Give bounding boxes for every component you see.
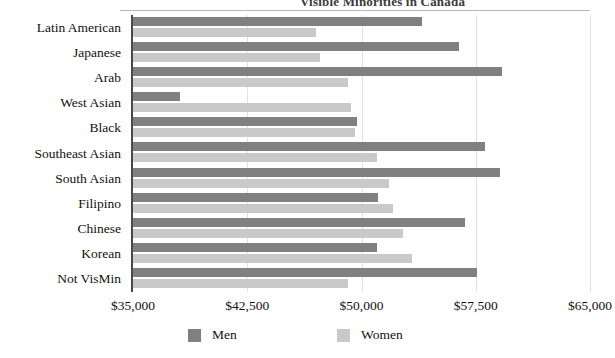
bar-men[interactable]	[133, 243, 377, 252]
plot-area	[133, 15, 590, 292]
x-tick-label: $35,000	[73, 298, 193, 314]
legend-item-women[interactable]: Women	[337, 327, 403, 343]
bar-row	[133, 116, 590, 141]
bar-men[interactable]	[133, 218, 465, 227]
bar-women[interactable]	[133, 204, 393, 213]
bar-men[interactable]	[133, 42, 459, 51]
bar-men[interactable]	[133, 168, 500, 177]
bar-men[interactable]	[133, 268, 477, 277]
chart-container: Visible Minorities in Canada Latin Ameri…	[0, 0, 615, 358]
bar-row	[133, 40, 590, 65]
chart-legend: Men Women	[0, 327, 615, 349]
category-label: Southeast Asian	[0, 147, 121, 161]
bar-men[interactable]	[133, 17, 422, 26]
category-label: Chinese	[0, 222, 121, 236]
gridline	[590, 15, 591, 292]
legend-label-men: Men	[212, 327, 237, 343]
x-tick-label: $65,000	[530, 298, 615, 314]
chart-title-clipped: Visible Minorities in Canada	[300, 0, 600, 8]
legend-item-men[interactable]: Men	[188, 327, 237, 343]
bar-women[interactable]	[133, 179, 389, 188]
legend-swatch-women-icon	[337, 329, 350, 342]
bar-row	[133, 15, 590, 40]
bar-row	[133, 91, 590, 116]
bar-women[interactable]	[133, 78, 348, 87]
bar-men[interactable]	[133, 193, 378, 202]
category-label: Arab	[0, 71, 121, 85]
bar-women[interactable]	[133, 279, 348, 288]
bar-men[interactable]	[133, 142, 485, 151]
x-tick-label: $50,000	[302, 298, 422, 314]
bar-women[interactable]	[133, 53, 320, 62]
bar-row	[133, 242, 590, 267]
bar-women[interactable]	[133, 128, 355, 137]
bar-men[interactable]	[133, 67, 502, 76]
bar-row	[133, 191, 590, 216]
bar-rows	[133, 15, 590, 292]
category-label: South Asian	[0, 172, 121, 186]
category-label: Japanese	[0, 46, 121, 60]
bar-row	[133, 65, 590, 90]
legend-swatch-men-icon	[188, 329, 201, 342]
category-label: Black	[0, 121, 121, 135]
x-tick-label: $57,500	[416, 298, 536, 314]
legend-label-women: Women	[361, 327, 403, 343]
category-label: Filipino	[0, 197, 121, 211]
bar-row	[133, 166, 590, 191]
bar-men[interactable]	[133, 92, 180, 101]
bar-men[interactable]	[133, 117, 357, 126]
bar-women[interactable]	[133, 153, 377, 162]
category-label: Korean	[0, 247, 121, 261]
bar-women[interactable]	[133, 28, 316, 37]
bar-row	[133, 141, 590, 166]
category-label: Latin American	[0, 21, 121, 35]
bar-women[interactable]	[133, 103, 351, 112]
y-axis-category-labels: Latin AmericanJapaneseArabWest AsianBlac…	[0, 15, 128, 292]
x-tick-label: $42,500	[187, 298, 307, 314]
bar-row	[133, 267, 590, 292]
category-label: Not VisMin	[0, 272, 121, 286]
bar-row	[133, 216, 590, 241]
bar-women[interactable]	[133, 254, 412, 263]
category-label: West Asian	[0, 96, 121, 110]
x-axis-tick-labels: $35,000$42,500$50,000$57,500$65,000	[0, 298, 615, 316]
title-divider	[120, 10, 590, 11]
bar-women[interactable]	[133, 229, 403, 238]
